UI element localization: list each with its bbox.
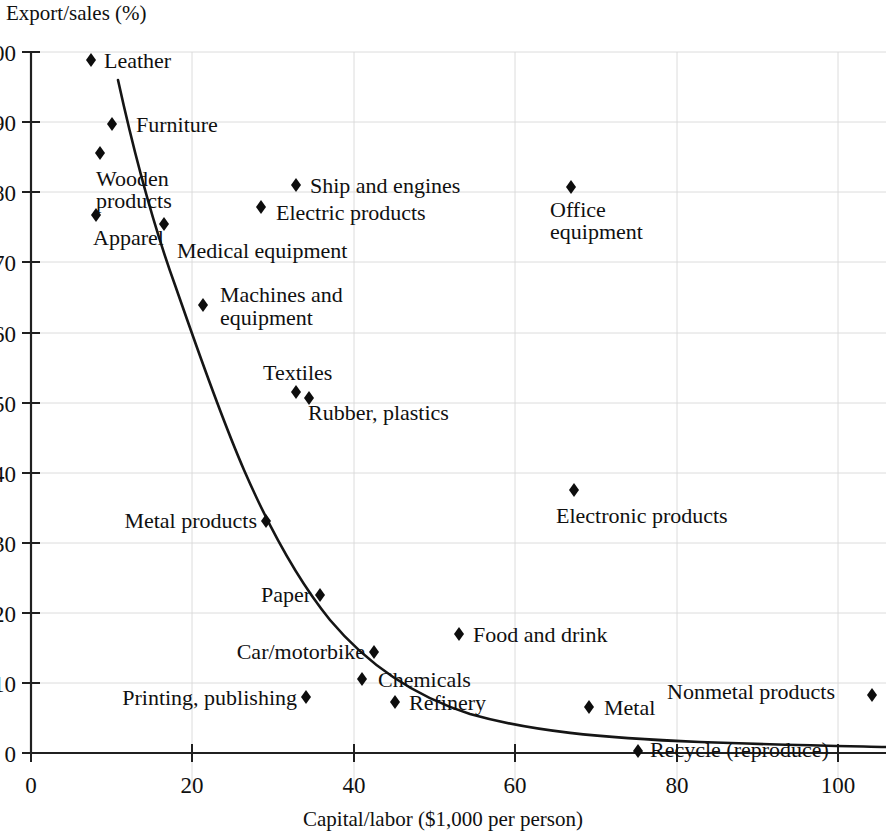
marker-wooden-products[interactable] (95, 146, 105, 160)
marker-machines-and-equipment[interactable] (198, 298, 208, 312)
scatter-chart-figure: Export/sales (%) Capital/labor ($1,000 p… (0, 0, 886, 834)
label-furniture: Furniture (136, 112, 218, 137)
label-metal-products: Metal products (124, 508, 257, 533)
marker-chemicals[interactable] (357, 672, 367, 686)
marker-nonmetal-products[interactable] (867, 688, 877, 702)
label-ship-and-engines: Ship and engines (310, 173, 460, 198)
label-rubber-plastics: Rubber, plastics (308, 400, 449, 425)
label-refinery: Refinery (409, 690, 486, 715)
y-axis-ticks: 100 90 80 70 60 50 40 30 20 10 0 (0, 41, 40, 767)
label-office-equipment-line2: equipment (550, 219, 643, 244)
marker-leather[interactable] (86, 53, 96, 67)
y-tick-label-40: 40 (0, 462, 16, 487)
axis-lines (31, 52, 886, 753)
label-wooden-products-line2: products (96, 188, 172, 213)
x-axis-title: Capital/labor ($1,000 per person) (303, 807, 583, 831)
marker-recycle[interactable] (633, 744, 643, 758)
y-tick-label-50: 50 (0, 392, 16, 417)
marker-ship-and-engines[interactable] (291, 178, 301, 192)
marker-metal[interactable] (584, 700, 594, 714)
label-machines-line1: Machines and (220, 282, 343, 307)
x-tick-label-60: 60 (504, 773, 527, 798)
marker-textiles[interactable] (291, 385, 301, 399)
x-tick-label-0: 0 (25, 773, 37, 798)
marker-printing-publishing[interactable] (301, 690, 311, 704)
label-food-and-drink: Food and drink (473, 622, 607, 647)
y-tick-label-20: 20 (0, 602, 16, 627)
y-axis-title: Export/sales (%) (6, 1, 147, 25)
y-tick-label-90: 90 (0, 111, 16, 136)
label-chemicals: Chemicals (378, 667, 471, 692)
label-paper: Paper (261, 582, 312, 607)
label-car-motorbike: Car/motorbike (237, 639, 365, 664)
label-nonmetal-products: Nonmetal products (667, 679, 835, 704)
label-medical-equipment: Medical equipment (177, 238, 347, 263)
x-tick-label-100: 100 (821, 773, 856, 798)
label-electric-products: Electric products (276, 200, 426, 225)
y-tick-label-10: 10 (0, 672, 16, 697)
x-tick-label-40: 40 (343, 773, 366, 798)
chart-svg: Export/sales (%) Capital/labor ($1,000 p… (0, 0, 886, 834)
y-tick-label-60: 60 (0, 322, 16, 347)
label-recycle: Recycle (reproduce) (650, 737, 829, 762)
marker-electronic-products[interactable] (569, 483, 579, 497)
label-leather: Leather (104, 48, 172, 73)
marker-electric-products[interactable] (256, 200, 266, 214)
marker-refinery[interactable] (390, 695, 400, 709)
label-printing-publishing: Printing, publishing (122, 685, 297, 710)
y-tick-label-0: 0 (5, 742, 17, 767)
marker-food-and-drink[interactable] (454, 627, 464, 641)
label-machines-line2: equipment (220, 305, 313, 330)
label-electronic-products: Electronic products (556, 503, 728, 528)
data-markers (86, 53, 877, 758)
y-tick-label-70: 70 (0, 251, 16, 276)
x-tick-label-80: 80 (666, 773, 689, 798)
marker-paper[interactable] (315, 588, 325, 602)
y-tick-label-30: 30 (0, 532, 16, 557)
label-metal: Metal (604, 695, 655, 720)
label-apparel: Apparel (93, 225, 164, 250)
label-textiles: Textiles (263, 360, 332, 385)
y-tick-label-80: 80 (0, 181, 16, 206)
y-tick-label-100: 100 (0, 41, 16, 66)
x-tick-label-20: 20 (181, 773, 204, 798)
point-labels: Leather Furniture Wooden products Appare… (93, 48, 835, 762)
marker-furniture[interactable] (107, 117, 117, 131)
marker-car-motorbike[interactable] (369, 645, 379, 659)
